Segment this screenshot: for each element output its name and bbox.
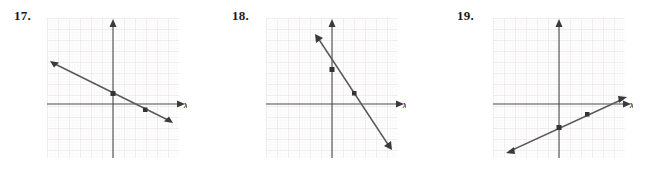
plot-point-18-b (352, 91, 357, 96)
graph-19: x y (493, 18, 625, 158)
plot-point-17-b (143, 108, 148, 113)
plot-point-18-a (330, 67, 335, 72)
graph-18: x y (266, 18, 398, 158)
graph-19-svg: x y (493, 18, 633, 163)
problem-number-18: 18. (232, 8, 249, 24)
problem-17: 17. (0, 0, 218, 185)
graph-18-svg: x y (266, 18, 406, 163)
problem-number-19: 19. (457, 8, 474, 24)
x-axis-label-19: x (629, 99, 633, 110)
problem-19: 19. (436, 0, 654, 185)
x-axis-label-17: x (183, 99, 187, 110)
x-axis-label-18: x (402, 99, 406, 110)
plot-point-19-b (585, 112, 590, 117)
problem-18: 18. (218, 0, 436, 185)
graph-17-svg: x y (47, 18, 187, 163)
plot-point-17-a (111, 91, 116, 96)
plot-point-19-a (557, 125, 562, 130)
graph-17: x y (47, 18, 179, 158)
problem-number-17: 17. (14, 8, 31, 24)
worksheet-graph-row: 17. (0, 0, 654, 185)
